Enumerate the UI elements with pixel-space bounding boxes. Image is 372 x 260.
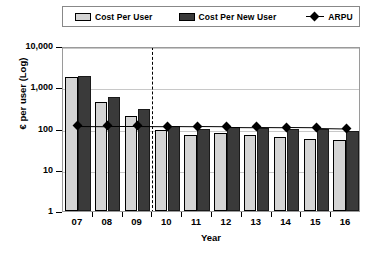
bar-cost-per-new-user [168,126,180,212]
bar-cost-per-new-user [317,129,329,211]
bar-cost-per-user [244,135,256,211]
gridline [63,89,359,90]
bar-cost-per-user [184,135,196,211]
x-tick-mark [151,212,152,217]
y-tick-label: 10 [43,165,53,175]
x-tick-label: 09 [122,216,152,227]
bar-cost-per-user [304,139,316,211]
x-tick-label: 15 [300,216,330,227]
bar-cost-per-user [333,140,345,211]
bar-cost-per-user [65,77,77,211]
x-tick-label: 12 [211,216,241,227]
x-tick-mark [300,212,301,217]
x-tick-mark [330,212,331,217]
x-tick-label: 11 [181,216,211,227]
bar-cost-per-new-user [287,129,299,212]
bar-cost-per-new-user [197,129,209,212]
legend-label-cost-per-user: Cost Per User [95,12,153,22]
x-tick-label: 07 [62,216,92,227]
x-tick-mark [92,212,93,217]
x-tick-label: 14 [271,216,301,227]
legend-item-cost-per-new-user: Cost Per New User [179,12,277,22]
bar-cost-per-new-user [346,131,358,211]
x-tick-mark [271,212,272,217]
bar-cost-per-user [125,116,137,211]
legend-item-arpu: ARPU [306,12,353,22]
x-tick-label: 08 [92,216,122,227]
x-tick-mark [181,212,182,217]
bar-cost-per-new-user [108,97,120,211]
y-tick-mark [56,212,62,213]
bar-cost-per-new-user [227,127,239,211]
y-tick-label: 1 [48,206,53,216]
x-axis-label: Year [62,232,360,243]
x-tick-label: 13 [241,216,271,227]
x-tick-mark [211,212,212,217]
y-tick-label: 100 [38,124,53,134]
legend-swatch-icon-cost-per-user [75,13,91,21]
bar-cost-per-new-user [257,128,269,211]
x-tick-label: 10 [151,216,181,227]
y-tick-label: 10,000 [25,41,53,51]
y-tick-label: 1,000 [30,82,53,92]
legend-diamond-icon-arpu [306,12,324,21]
x-tick-label: 16 [330,216,360,227]
chart-container: Cost Per User Cost Per New User ARPU € p… [0,0,372,260]
legend-label-arpu: ARPU [328,12,353,22]
forecast-divider-line [152,47,153,212]
x-tick-mark [241,212,242,217]
x-tick-mark [122,212,123,217]
bar-cost-per-user [155,130,167,211]
legend-swatch-icon-cost-per-new-user [179,13,195,21]
chart-legend: Cost Per User Cost Per New User ARPU [62,6,360,27]
bar-cost-per-user [214,133,226,211]
plot-area [62,47,360,212]
bar-cost-per-new-user [78,76,90,211]
gridline [63,48,359,49]
bar-cost-per-user [95,102,107,211]
bar-cost-per-user [274,137,286,211]
legend-item-cost-per-user: Cost Per User [75,12,153,22]
legend-label-cost-per-new-user: Cost Per New User [199,12,277,22]
